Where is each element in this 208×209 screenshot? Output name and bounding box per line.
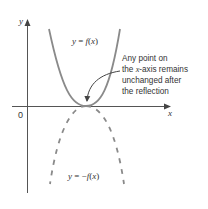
y-axis-label: y (18, 16, 23, 26)
origin-label: 0 (18, 110, 23, 120)
x-axis-label: x (167, 108, 172, 118)
label-f: y = f(x) (71, 36, 98, 46)
annotation-line-3: unchanged after (122, 76, 181, 85)
annotation-line-4: the reflection (122, 87, 169, 96)
label-neg-f: y = −f(x) (67, 171, 99, 181)
annotation-line-1: Any point on (122, 54, 168, 63)
annotation: Any point on the x-axis remains unchange… (122, 54, 188, 96)
annotation-line-2: the x-axis remains (122, 65, 188, 74)
reflection-diagram: x y 0 y = f(x) y = −f(x) Any point on th… (0, 0, 208, 209)
annotation-arrow (87, 71, 120, 101)
